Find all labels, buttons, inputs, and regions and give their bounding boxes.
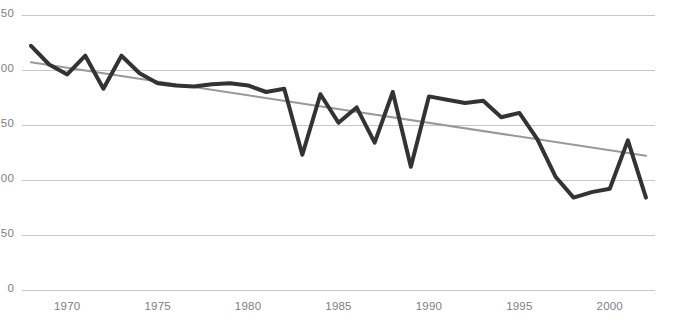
y-tick-label-100: 00 <box>0 172 14 184</box>
x-tick-label-1970: 1970 <box>27 300 107 312</box>
x-tick-label-1980: 1980 <box>208 300 288 312</box>
x-tick-label-2000: 2000 <box>570 300 650 312</box>
line-chart-plot <box>0 0 683 325</box>
gridlines <box>22 15 655 290</box>
y-tick-label-150: 50 <box>0 117 14 129</box>
data-series <box>31 46 646 198</box>
x-tick-label-1985: 1985 <box>299 300 379 312</box>
x-tick-label-1975: 1975 <box>118 300 198 312</box>
x-tick-label-1990: 1990 <box>389 300 469 312</box>
chart-container: 50005000500 1970197519801985199019952000 <box>0 0 683 325</box>
y-tick-label-250: 50 <box>0 7 14 19</box>
data-line <box>31 46 646 198</box>
trendline-series <box>31 62 646 156</box>
y-tick-label-200: 00 <box>0 62 14 74</box>
trend-line <box>31 62 646 156</box>
y-tick-label-0: 0 <box>0 282 14 294</box>
x-tick-label-1995: 1995 <box>479 300 559 312</box>
y-tick-label-50: 50 <box>0 227 14 239</box>
